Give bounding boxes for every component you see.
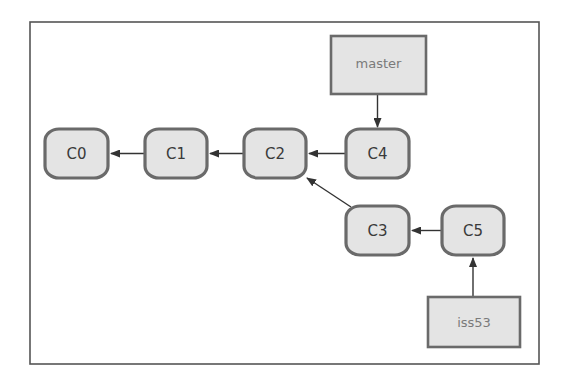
branch-iss53: iss53: [428, 297, 520, 347]
branch-label-master: master: [356, 56, 402, 71]
commit-label-c5: C5: [463, 222, 483, 240]
branch-master: master: [331, 36, 426, 94]
commit-label-c1: C1: [166, 145, 186, 163]
branch-label-iss53: iss53: [457, 315, 491, 330]
commit-c1: C1: [145, 129, 207, 178]
commit-c3: C3: [346, 206, 409, 255]
commit-label-c3: C3: [367, 222, 387, 240]
commit-label-c2: C2: [265, 145, 285, 163]
git-branch-diagram: master iss53 C0 C1 C2 C4 C3 C5: [0, 0, 567, 382]
commit-c0: C0: [45, 129, 108, 178]
commit-c4: C4: [346, 129, 409, 178]
commit-c2: C2: [244, 129, 306, 178]
commit-c5: C5: [442, 206, 504, 255]
commit-label-c4: C4: [367, 145, 387, 163]
commit-label-c0: C0: [66, 145, 86, 163]
